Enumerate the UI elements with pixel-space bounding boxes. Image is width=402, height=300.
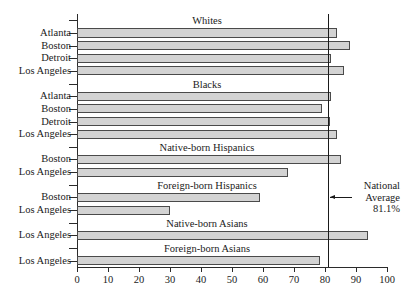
bar: [77, 193, 260, 202]
annotation-line-2: Average: [364, 192, 400, 204]
x-axis-tick-label: 60: [258, 274, 269, 285]
x-axis-tick: [232, 267, 233, 272]
x-axis-tick: [294, 267, 295, 272]
x-axis-tick: [108, 267, 109, 272]
bar: [77, 130, 337, 139]
x-axis-tick-label: 40: [196, 274, 207, 285]
bar-chart: AtlantaBostonDetroitLos AngelesAtlantaBo…: [0, 0, 402, 300]
bar: [77, 117, 330, 126]
category-label: Los Angeles: [19, 256, 71, 266]
x-axis-tick: [139, 267, 140, 272]
bar: [77, 54, 331, 63]
x-axis-tick-label: 50: [227, 274, 238, 285]
x-axis-tick: [170, 267, 171, 272]
x-axis-tick-label: 70: [289, 274, 300, 285]
bar: [77, 206, 170, 215]
category-label: Boston: [41, 192, 71, 202]
group-label: Native-born Asians: [166, 217, 247, 228]
x-axis-tick-label: 80: [320, 274, 331, 285]
national-average-arrow: [330, 197, 352, 198]
category-label: Los Angeles: [19, 66, 71, 76]
category-label: Detroit: [41, 117, 71, 127]
bar: [77, 92, 331, 101]
category-label: Los Angeles: [19, 205, 71, 215]
x-axis-tick: [325, 267, 326, 272]
category-label: Atlanta: [40, 91, 71, 101]
category-label: Atlanta: [40, 28, 71, 38]
bar: [77, 66, 344, 75]
category-label: Los Angeles: [19, 230, 71, 240]
group-label: Foreign-born Hispanics: [157, 179, 256, 190]
group-label: Native-born Hispanics: [160, 141, 255, 152]
bar: [77, 256, 320, 265]
bar: [77, 168, 288, 177]
bar: [77, 104, 322, 113]
x-axis-tick-label: 90: [351, 274, 362, 285]
y-axis-tick: [69, 20, 77, 21]
x-axis-tick-label: 20: [134, 274, 145, 285]
bar: [77, 28, 337, 37]
x-axis-tick: [356, 267, 357, 272]
x-axis-tick: [387, 267, 388, 272]
x-axis-tick: [201, 267, 202, 272]
x-axis-tick-label: 100: [379, 274, 395, 285]
annotation-line-3: 81.1%: [364, 203, 400, 215]
annotation-line-1: National: [364, 180, 400, 192]
y-axis-tick: [69, 185, 77, 186]
category-label: Detroit: [41, 53, 71, 63]
category-label: Boston: [41, 41, 71, 51]
y-axis-tick: [69, 223, 77, 224]
group-label: Blacks: [193, 78, 222, 89]
category-label: Los Angeles: [19, 167, 71, 177]
category-label: Boston: [41, 104, 71, 114]
bar: [77, 155, 341, 164]
y-axis-tick: [69, 84, 77, 85]
bar: [77, 231, 368, 240]
national-average-line: [328, 14, 329, 267]
category-label: Los Angeles: [19, 129, 71, 139]
bar: [77, 41, 350, 50]
x-axis-tick-label: 10: [103, 274, 114, 285]
x-axis-tick-label: 30: [165, 274, 176, 285]
category-label: Boston: [41, 154, 71, 164]
x-axis-tick: [77, 267, 78, 272]
group-label: Foreign-born Asians: [164, 243, 250, 254]
x-axis-tick-label: 0: [74, 274, 79, 285]
national-average-annotation: National Average 81.1%: [364, 180, 400, 215]
y-axis-tick: [69, 248, 77, 249]
y-axis-tick: [69, 147, 77, 148]
x-axis-tick: [263, 267, 264, 272]
group-label: Whites: [192, 15, 222, 26]
